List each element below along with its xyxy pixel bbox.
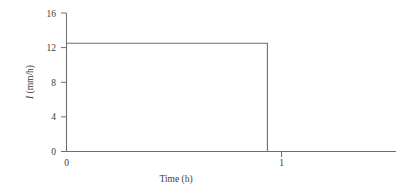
rainfall-intensity-pulse <box>67 43 268 151</box>
x-axis-title: Time (h) <box>159 174 192 185</box>
y-axis-title: I (mm/h) <box>25 65 36 100</box>
y-axis-title-units: (mm/h) <box>25 65 36 96</box>
y-tick-label-16: 16 <box>47 9 57 19</box>
rainfall-hyetograph-figure: 16 12 8 4 0 0 1 Time (h) I (mm/h) <box>0 0 414 194</box>
x-tick-label-0: 0 <box>64 158 69 168</box>
y-tick-label-8: 8 <box>51 78 56 88</box>
y-tick-label-4: 4 <box>51 112 56 122</box>
y-tick-label-0: 0 <box>51 147 56 157</box>
y-tick-label-12: 12 <box>47 43 57 53</box>
x-tick-label-1: 1 <box>279 158 284 168</box>
chart-canvas: 16 12 8 4 0 0 1 Time (h) I (mm/h) <box>0 0 414 194</box>
